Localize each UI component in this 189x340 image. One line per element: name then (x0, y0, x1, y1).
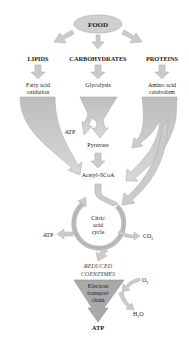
proteins-down-arrow-icon (155, 65, 169, 79)
electron-label: Electron (88, 283, 108, 289)
food-node: FOOD (74, 15, 122, 33)
lipids-label: LIPIDS (28, 55, 49, 62)
proteins-label: PROTEINS (146, 55, 179, 62)
lipids-down-arrow-icon (31, 65, 45, 79)
co2-label: CO2 (143, 233, 153, 241)
acid-label: acid (93, 222, 103, 228)
amino-acid-label: Amino acid (148, 82, 176, 88)
food-label: FOOD (88, 21, 108, 29)
cycle-label: cycle (92, 229, 105, 235)
o2-label: O2 (142, 277, 148, 285)
final-atp-label: ATP (92, 324, 105, 331)
acetyl-scoa-label: Acetyl-SCoA (82, 172, 115, 178)
pyruvate-arrow-icon (91, 153, 105, 168)
carbohydrates-label: CARBOHYDRATES (69, 55, 127, 62)
fatty-acid-label: Fatty acid (26, 82, 50, 88)
cycle-atp-arrow-icon (57, 229, 73, 239)
h2o-arrow-icon (119, 292, 134, 310)
o2-arrow-icon (122, 278, 140, 292)
electron-transport-chain: Electron transport chain (74, 280, 124, 322)
arrow-to-proteins-icon (122, 30, 142, 43)
arrow-to-lipids-icon (54, 30, 74, 43)
h2o-label: H2O (133, 311, 144, 319)
reduced-label: REDUCED (83, 263, 113, 269)
transport-label: transport (87, 290, 109, 296)
citric-label: Citric (91, 215, 105, 221)
catabolism-label: catabolism (149, 89, 175, 95)
lipids-funnel-arrow-icon (20, 97, 82, 175)
coenzymes-label: COENZYMES (81, 271, 115, 277)
carbs-down-arrow-icon (91, 65, 105, 79)
arrow-to-carbs-icon (92, 35, 104, 49)
metabolism-diagram: FOOD LIPIDS CARBOHYDRATES PROTEINS Fatty… (0, 0, 189, 340)
oxidation-label: oxidation (27, 89, 50, 95)
chain-label: chain (92, 297, 105, 303)
glycolysis-atp-label: ATP (65, 129, 76, 135)
carbs-funnel-arrow-icon (80, 97, 117, 138)
glycolysis-label: Glycolysis (85, 82, 111, 88)
pyruvate-label: Pyruvate (87, 142, 109, 148)
category-arrows (31, 65, 169, 79)
acetyl-to-cycle-arrow-icon (95, 184, 118, 206)
cycle-atp-label: ATP (43, 232, 54, 238)
